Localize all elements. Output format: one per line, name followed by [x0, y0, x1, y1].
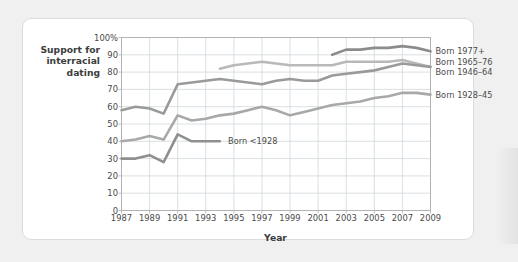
- series-line: [122, 63, 431, 113]
- y-axis-tick: 70: [90, 84, 118, 94]
- series-legend-label: Born 1946–64: [436, 67, 493, 77]
- y-axis-tick: 80: [90, 67, 118, 77]
- y-axis-tick: 10: [90, 188, 118, 198]
- x-axis-tick: 1997: [251, 213, 272, 223]
- line-chart: Support for interracial dating 010203040…: [0, 0, 518, 262]
- x-axis-label: Year: [121, 232, 430, 243]
- x-axis-tick: 2007: [392, 213, 413, 223]
- y-axis-tick: 30: [90, 154, 118, 164]
- y-axis-tick: 40: [90, 136, 118, 146]
- x-axis-tick: 1989: [139, 213, 160, 223]
- x-axis-tick: 1993: [195, 213, 216, 223]
- series-line: [122, 93, 431, 141]
- x-axis-tick: 1999: [279, 213, 300, 223]
- x-axis-tick-labels: 1987198919911993199519971999200120032005…: [0, 213, 518, 229]
- y-axis-tick: 60: [90, 102, 118, 112]
- y-axis-tick: 50: [90, 119, 118, 129]
- x-axis-tick: 1987: [111, 213, 132, 223]
- x-axis-tick: 2001: [307, 213, 328, 223]
- series-legend-label: Born 1977+: [436, 46, 485, 56]
- y-axis-tick: 20: [90, 171, 118, 181]
- series-legend-label: Born 1965–76: [436, 57, 493, 67]
- series-line: [332, 46, 430, 55]
- x-axis-tick: 2003: [336, 213, 357, 223]
- y-axis-tick: 100%: [90, 33, 118, 43]
- series-inline-label: Born <1928: [228, 136, 277, 146]
- x-axis-tick: 2005: [364, 213, 385, 223]
- x-axis-tick: 2009: [420, 213, 441, 223]
- y-axis-tick: 90: [90, 50, 118, 60]
- x-axis-tick: 1991: [167, 213, 188, 223]
- series-legend-label: Born 1928–45: [436, 90, 493, 100]
- x-axis-tick: 1995: [223, 213, 244, 223]
